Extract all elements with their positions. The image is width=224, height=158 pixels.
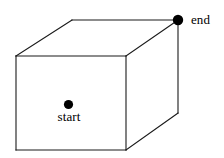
figure-canvas: start end	[0, 0, 224, 158]
start-point-marker	[64, 100, 73, 109]
end-point-label: end	[191, 13, 210, 27]
end-point-marker	[173, 15, 183, 25]
start-point-label: start	[50, 110, 88, 124]
